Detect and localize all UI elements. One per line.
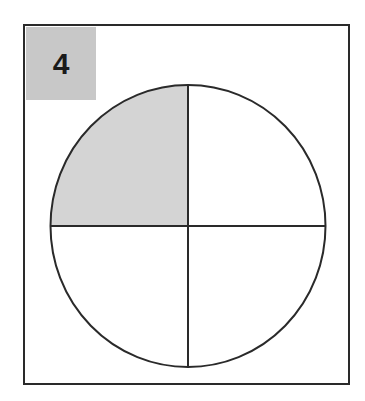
shaded-quadrant [51, 85, 189, 226]
fraction-circle [0, 0, 365, 401]
